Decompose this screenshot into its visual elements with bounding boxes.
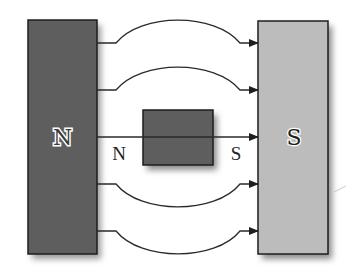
magnetic-field-diagram: N S N S [0,0,356,280]
small-magnet-north-label: N [112,143,126,164]
north-pole-label: N [53,125,72,150]
field-line [97,20,258,43]
field-lines [97,20,258,254]
north-magnet: N [28,20,101,259]
south-pole-label: S [286,125,301,150]
scan-artifact [334,186,346,192]
south-magnet: S [258,21,332,259]
field-line [97,184,258,207]
small-magnet-south-label: S [231,143,242,164]
diagram-canvas: N S N S [0,0,356,280]
field-line [97,231,258,254]
field-line [97,67,258,90]
small-magnet: N S [112,110,241,170]
